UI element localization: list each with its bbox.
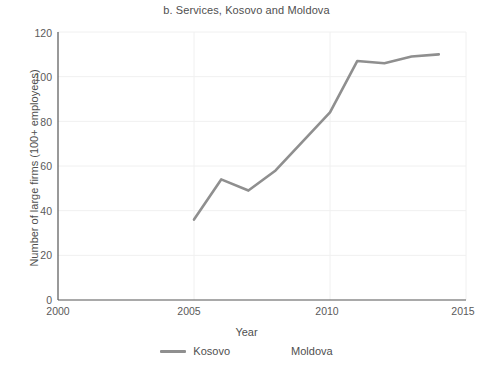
y-tick-20: 20 [24, 250, 52, 260]
x-tick-2015: 2015 [438, 305, 488, 317]
y-tick-100: 100 [24, 72, 52, 82]
legend-item-kosovo[interactable]: Kosovo [160, 345, 230, 357]
series-line-kosovo [194, 54, 439, 219]
x-axis-label: Year [0, 326, 493, 338]
y-tick-0: 0 [24, 295, 52, 305]
legend-swatch-icon [258, 350, 284, 353]
legend-label: Moldova [291, 345, 333, 357]
chart-figure: b. Services, Kosovo and Moldova Number o… [0, 0, 493, 368]
y-tick-80: 80 [24, 117, 52, 127]
y-tick-120: 120 [24, 28, 52, 38]
legend-swatch-icon [160, 350, 186, 353]
legend-label: Kosovo [193, 345, 230, 357]
chart-title: b. Services, Kosovo and Moldova [0, 4, 493, 16]
gridlines [58, 32, 466, 300]
chart-legend: KosovoMoldova [0, 345, 493, 357]
x-tick-2000: 2000 [33, 305, 83, 317]
data-series-layer [194, 54, 439, 219]
y-tick-60: 60 [24, 161, 52, 171]
y-tick-40: 40 [24, 206, 52, 216]
x-tick-2005: 2005 [164, 305, 214, 317]
legend-item-moldova[interactable]: Moldova [258, 345, 333, 357]
x-tick-2010: 2010 [302, 305, 352, 317]
